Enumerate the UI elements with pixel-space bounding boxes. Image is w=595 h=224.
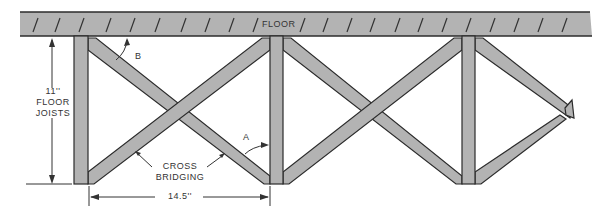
angle-b-label: B: [135, 51, 142, 62]
angle-a-label: A: [243, 132, 250, 143]
joist-1: [74, 36, 88, 184]
floor-slab: [20, 12, 592, 36]
floor-framing-diagram: [0, 0, 595, 224]
bridging-bay3-down: [475, 38, 572, 118]
joist-3: [462, 36, 475, 184]
joist-spacing-label: 14.5'': [160, 191, 200, 202]
bridging-bay3-up: [475, 115, 566, 184]
floor-label: FLOOR: [262, 19, 296, 30]
joist-height-label-line2: JOISTS: [31, 108, 75, 119]
bridging-cut-end: [565, 100, 574, 118]
joist-2: [270, 36, 283, 184]
bridging-label-line2: BRIDGING: [155, 172, 205, 183]
joist-height-label-line1: FLOOR: [31, 97, 75, 108]
bridging-label-line1: CROSS: [155, 161, 205, 172]
joist-height-value: 11'': [38, 86, 68, 97]
